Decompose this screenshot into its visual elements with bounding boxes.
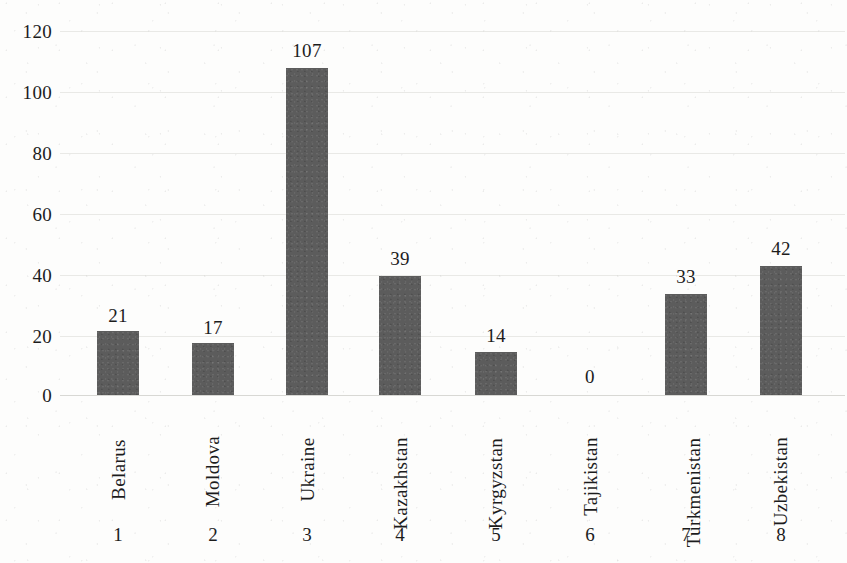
bar-group-ukraine: 107 Ukraine 3 bbox=[260, 0, 354, 563]
bar-value-label: 14 bbox=[449, 326, 543, 345]
bar-rect[interactable] bbox=[760, 266, 802, 395]
bar-value-label: 107 bbox=[260, 41, 354, 60]
y-tick-label-60: 60 bbox=[0, 205, 52, 224]
y-tick-label-40: 40 bbox=[0, 266, 52, 285]
bar-index-label: 1 bbox=[71, 525, 165, 544]
bar-category-label: Belarus bbox=[71, 460, 165, 479]
bar-category-text: Ukraine bbox=[298, 438, 317, 502]
bar-category-text: Moldova bbox=[204, 436, 223, 507]
y-tick-label-0: 0 bbox=[0, 386, 52, 405]
bar-rect[interactable] bbox=[286, 68, 328, 395]
bar-index-label: 8 bbox=[734, 525, 828, 544]
bar-rect[interactable] bbox=[475, 352, 517, 395]
bar-chart-figure: 120 100 80 60 40 20 0 21 Belarus 1 17 Mo… bbox=[0, 0, 847, 563]
bar-category-label: Ukraine bbox=[260, 460, 354, 479]
bar-group-moldova: 17 Moldova 2 bbox=[166, 0, 260, 563]
bar-group-kyrgyzstan: 14 Kyrgyzstan 5 bbox=[449, 0, 543, 563]
bar-category-label: Kyrgyzstan bbox=[449, 474, 543, 493]
bar-index-label: 7 bbox=[639, 525, 733, 544]
bar-group-belarus: 21 Belarus 1 bbox=[71, 0, 165, 563]
bar-category-text: Belarus bbox=[109, 439, 128, 500]
y-tick-label-120: 120 bbox=[0, 22, 52, 41]
bar-rect[interactable] bbox=[97, 331, 139, 395]
bar-index-label: 2 bbox=[166, 525, 260, 544]
bar-category-label: Moldova bbox=[166, 462, 260, 481]
bar-value-label: 42 bbox=[734, 239, 828, 258]
y-tick-label-20: 20 bbox=[0, 327, 52, 346]
bar-rect[interactable] bbox=[379, 276, 421, 395]
bar-group-kazakhstan: 39 Kazakhstan 4 bbox=[353, 0, 447, 563]
bar-category-label: Uzbekistan bbox=[734, 472, 828, 491]
bar-value-label: 17 bbox=[166, 318, 260, 337]
bar-category-label: Turkmenistan bbox=[639, 483, 733, 502]
bar-category-label: Tajikistan bbox=[543, 467, 637, 486]
bar-rect[interactable] bbox=[665, 294, 707, 395]
bar-category-text: Kazakhstan bbox=[390, 437, 409, 530]
bar-group-uzbekistan: 42 Uzbekistan 8 bbox=[734, 0, 828, 563]
bar-category-text: Kyrgyzstan bbox=[487, 438, 506, 529]
bar-value-label: 21 bbox=[71, 306, 165, 325]
bar-value-label: 0 bbox=[543, 367, 637, 386]
bar-index-label: 4 bbox=[353, 525, 447, 544]
bar-rect[interactable] bbox=[192, 343, 234, 395]
bar-index-label: 3 bbox=[260, 525, 354, 544]
y-tick-label-100: 100 bbox=[0, 83, 52, 102]
y-tick-label-80: 80 bbox=[0, 144, 52, 163]
bar-category-text: Tajikistan bbox=[581, 437, 600, 516]
bar-group-turkmenistan: 33 Turkmenistan 7 bbox=[639, 0, 733, 563]
bar-category-text: Uzbekistan bbox=[771, 437, 790, 526]
bar-value-label: 33 bbox=[639, 267, 733, 286]
bar-index-label: 5 bbox=[449, 525, 543, 544]
bar-category-label: Kazakhstan bbox=[353, 474, 447, 493]
bar-index-label: 6 bbox=[543, 525, 637, 544]
bar-value-label: 39 bbox=[353, 249, 447, 268]
y-axis: 120 100 80 60 40 20 0 bbox=[0, 0, 52, 563]
bar-group-tajikistan: 0 Tajikistan 6 bbox=[543, 0, 637, 563]
